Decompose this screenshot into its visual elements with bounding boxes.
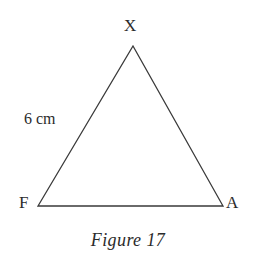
vertex-label-f: F xyxy=(19,194,29,211)
triangle-outline xyxy=(38,46,223,206)
figure-container: X F A 6 cm Figure 17 xyxy=(0,0,256,258)
side-length-label-fx: 6 cm xyxy=(24,110,56,128)
vertex-label-x: X xyxy=(124,17,136,34)
triangle-shape xyxy=(0,0,256,258)
vertex-label-a: A xyxy=(226,194,238,211)
figure-caption: Figure 17 xyxy=(0,230,256,251)
